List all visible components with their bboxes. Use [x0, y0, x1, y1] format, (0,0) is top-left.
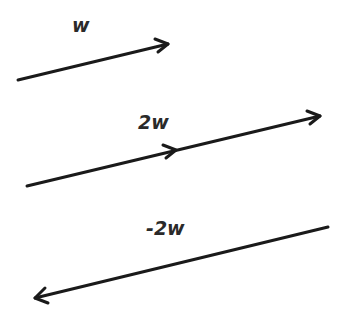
label-2w: 2w: [138, 113, 169, 132]
label-w: w: [72, 16, 90, 35]
label-neg-2w: -2w: [146, 219, 185, 238]
vector-diagram: [0, 0, 341, 328]
vector-2w: [27, 111, 320, 186]
vector-w: [18, 39, 168, 80]
